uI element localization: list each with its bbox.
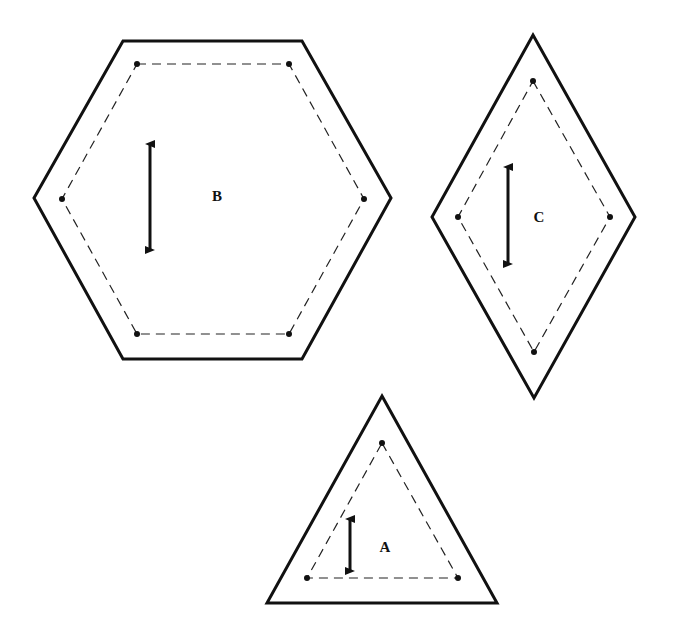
- triangle-vertex-dots: [304, 440, 461, 581]
- piece-c-diamond: C: [432, 35, 635, 398]
- triangle-outer-cut-line: [267, 396, 497, 603]
- vertex-dot: [455, 214, 461, 220]
- piece-b-hexagon: B: [34, 41, 391, 359]
- vertex-dot: [134, 331, 140, 337]
- vertex-dot: [379, 440, 385, 446]
- vertex-dot: [455, 575, 461, 581]
- piece-label-c: C: [534, 209, 545, 225]
- vertex-dot: [286, 331, 292, 337]
- vertex-dot: [530, 78, 536, 84]
- piece-label-b: B: [212, 188, 222, 204]
- vertex-dot: [59, 196, 65, 202]
- diagram-canvas: B C A: [0, 0, 675, 642]
- piece-label-a: A: [380, 539, 391, 555]
- triangle-inner-seam-line: [307, 443, 458, 578]
- vertex-dot: [304, 575, 310, 581]
- vertex-dot: [607, 214, 613, 220]
- vertex-dot: [134, 61, 140, 67]
- vertex-dot: [531, 349, 537, 355]
- vertex-dot: [361, 196, 367, 202]
- vertex-dot: [286, 61, 292, 67]
- piece-a-triangle: A: [267, 396, 497, 603]
